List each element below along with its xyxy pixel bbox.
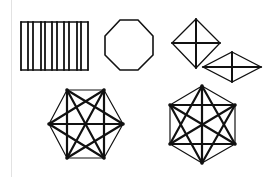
hexagon-vertex-dot — [102, 156, 106, 160]
hexagon-with-diagonals-right — [168, 84, 237, 165]
hexagon-vertex-dot — [200, 161, 204, 165]
vertical-bar-grid — [21, 22, 88, 70]
hexagon-vertex-dot — [168, 103, 172, 107]
hexagon-vertex-dot — [233, 142, 237, 146]
hexagon-vertex-dot — [47, 122, 51, 126]
octagon-shape — [105, 20, 153, 70]
geometry-figure — [0, 0, 277, 177]
diamond-shape-lower — [203, 52, 261, 82]
hexagon-vertex-dot — [168, 142, 172, 146]
hexagon-vertex-dot — [65, 156, 69, 160]
hexagon-with-diagonals-left — [47, 88, 125, 160]
diamond-shape-upper — [172, 19, 220, 68]
hexagon-vertex-dot — [233, 103, 237, 107]
hexagon-vertex-dot — [200, 84, 204, 88]
hexagon-vertex-dot — [65, 88, 69, 92]
hexagon-vertex-dot — [102, 88, 106, 92]
hexagon-vertex-dot — [121, 122, 125, 126]
